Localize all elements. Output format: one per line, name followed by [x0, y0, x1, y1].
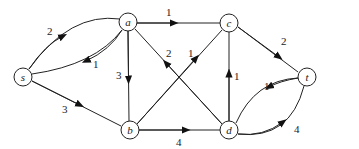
node-s: s: [14, 68, 32, 86]
svg-text:2: 2: [47, 25, 53, 37]
node-c: c: [220, 14, 238, 32]
svg-text:1: 1: [234, 70, 240, 82]
svg-text:c: c: [227, 17, 232, 29]
edge-a-c: 1: [137, 6, 220, 23]
edge-t-d: 1: [236, 78, 298, 123]
flow-network-diagram: 2 1 3 1 3 2 1 1: [0, 0, 359, 149]
node-t: t: [298, 68, 316, 86]
svg-text:1: 1: [264, 80, 270, 92]
edge-a-b: 3: [116, 31, 129, 121]
svg-text:3: 3: [116, 69, 122, 81]
edge-a-s: 1: [32, 30, 122, 74]
svg-text:4: 4: [176, 136, 182, 148]
svg-text:s: s: [21, 71, 25, 83]
edge-d-a: 2: [135, 29, 222, 124]
svg-text:4: 4: [294, 123, 300, 135]
svg-text:1: 1: [188, 47, 194, 59]
svg-text:3: 3: [62, 103, 68, 115]
diagram-canvas: 2 1 3 1 3 2 1 1: [0, 0, 359, 149]
svg-text:1: 1: [93, 58, 99, 70]
node-b: b: [121, 121, 139, 139]
svg-text:a: a: [125, 16, 131, 28]
node-a: a: [119, 13, 137, 31]
svg-text:2: 2: [166, 47, 172, 59]
edge-s-b: 3: [32, 81, 121, 126]
svg-text:2: 2: [281, 35, 287, 47]
edge-d-c: 1: [229, 32, 240, 121]
svg-text:b: b: [127, 124, 133, 136]
edge-b-d: 4: [139, 130, 220, 148]
node-d: d: [220, 121, 238, 139]
edge-s-a: 2: [29, 18, 120, 69]
edge-d-t: 4: [238, 86, 304, 135]
edge-c-t: 2: [238, 27, 298, 72]
svg-text:d: d: [226, 124, 232, 136]
svg-text:1: 1: [166, 6, 172, 18]
